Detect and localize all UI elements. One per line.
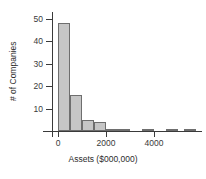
y-axis-tick <box>46 19 53 20</box>
histogram-bar <box>58 23 70 131</box>
plot-area: 1020304050 020004000 <box>0 0 206 179</box>
x-axis-line <box>43 131 202 132</box>
x-axis-tick-label: 4000 <box>134 139 174 148</box>
x-axis-tick-label: 0 <box>38 139 78 148</box>
histogram-bar <box>106 129 118 131</box>
histogram-bar <box>94 122 106 131</box>
y-axis-tick <box>46 64 53 65</box>
histogram-bar <box>184 129 196 131</box>
y-axis-tick <box>46 109 53 110</box>
histogram-bar <box>82 120 94 131</box>
x-axis-tick <box>58 131 59 137</box>
y-axis-title: # of Companies <box>9 11 18 131</box>
y-axis-tick-label: 20 <box>21 82 43 91</box>
histogram-bar <box>142 129 154 131</box>
histogram-bar <box>118 129 130 131</box>
histogram-bar <box>70 95 82 131</box>
histogram-bar <box>166 129 178 131</box>
y-axis-tick-label: 30 <box>21 60 43 69</box>
y-axis-tick-label: 10 <box>21 105 43 114</box>
x-axis-title: Assets ($000,000) <box>0 155 206 164</box>
y-axis-tick-label: 50 <box>21 15 43 24</box>
y-axis-tick-label: 40 <box>21 37 43 46</box>
y-axis-tick <box>46 86 53 87</box>
x-axis-tick-label: 2000 <box>86 139 126 148</box>
x-axis-tick <box>106 131 107 137</box>
histogram-figure: 1020304050 020004000 # of Companies Asse… <box>0 0 206 179</box>
y-axis-tick <box>46 41 53 42</box>
x-axis-tick <box>154 131 155 137</box>
y-axis-line <box>52 12 53 137</box>
